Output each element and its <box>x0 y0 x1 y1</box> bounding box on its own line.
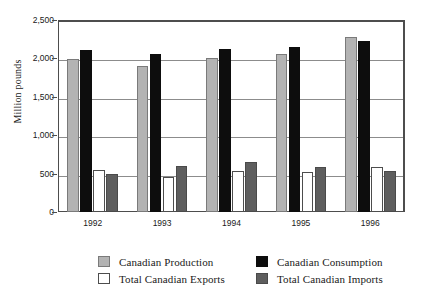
y-axis-tick-mark <box>52 97 57 98</box>
y-axis-tick-mark <box>52 212 57 213</box>
bar-exports-1994 <box>232 171 244 212</box>
bar-chart: Million pounds 05001,0001,5002,0002,500 … <box>0 0 430 294</box>
chart-legend: Canadian ProductionCanadian ConsumptionT… <box>98 253 398 287</box>
bar-consumption-1992 <box>80 50 92 212</box>
bar-imports-1993 <box>176 166 188 212</box>
y-axis-tick-labels: 05001,0001,5002,0002,500 <box>0 0 54 294</box>
y-axis-tick-label: 500 <box>6 169 54 179</box>
legend-label: Canadian Consumption <box>277 256 383 268</box>
bar-group <box>67 20 118 212</box>
y-axis-tick-mark <box>52 20 57 21</box>
x-axis-tick-label: 1994 <box>222 218 241 228</box>
bar-production-1993 <box>137 66 149 212</box>
bar-imports-1992 <box>106 174 118 212</box>
y-axis-tick-label: 2,500 <box>6 15 54 25</box>
x-axis-tick-label: 1992 <box>83 218 102 228</box>
bar-exports-1993 <box>163 177 175 212</box>
bar-group <box>276 20 327 212</box>
legend-label: Canadian Production <box>119 256 213 268</box>
bar-production-1992 <box>67 59 79 212</box>
bars-layer <box>58 20 405 212</box>
y-axis-tick-label: 0 <box>6 207 54 217</box>
legend-label: Total Canadian Exports <box>119 273 225 285</box>
bar-production-1995 <box>276 54 288 212</box>
legend-item: Total Canadian Exports <box>98 270 234 287</box>
bar-consumption-1993 <box>150 54 162 212</box>
legend-swatch-exports <box>98 273 110 284</box>
legend-swatch-consumption <box>256 256 268 267</box>
y-axis-tick-mark <box>52 58 57 59</box>
bar-group <box>345 20 396 212</box>
bar-group <box>206 20 257 212</box>
y-axis-tick-label: 2,000 <box>6 53 54 63</box>
bar-imports-1996 <box>384 171 396 212</box>
legend-item: Canadian Consumption <box>256 253 392 270</box>
y-axis-tick-label: 1,500 <box>6 92 54 102</box>
bar-exports-1992 <box>93 170 105 212</box>
bar-imports-1994 <box>245 162 257 212</box>
legend-item: Total Canadian Imports <box>256 270 392 287</box>
bar-consumption-1995 <box>289 47 301 212</box>
y-axis-tick-mark <box>52 135 57 136</box>
y-axis-tick-label: 1,000 <box>6 130 54 140</box>
bar-production-1996 <box>345 37 357 212</box>
bar-production-1994 <box>206 58 218 212</box>
bar-exports-1996 <box>371 167 383 212</box>
bar-consumption-1994 <box>219 49 231 212</box>
bar-consumption-1996 <box>358 41 370 212</box>
bar-group <box>137 20 188 212</box>
x-axis-tick-label: 1996 <box>361 218 380 228</box>
legend-item: Canadian Production <box>98 253 234 270</box>
x-axis-tick-label: 1995 <box>291 218 310 228</box>
legend-swatch-production <box>98 256 110 267</box>
legend-swatch-imports <box>256 273 268 284</box>
bar-imports-1995 <box>315 167 327 212</box>
legend-label: Total Canadian Imports <box>277 273 383 285</box>
x-axis-tick-label: 1993 <box>153 218 172 228</box>
bar-exports-1995 <box>302 172 314 212</box>
y-axis-tick-mark <box>52 174 57 175</box>
